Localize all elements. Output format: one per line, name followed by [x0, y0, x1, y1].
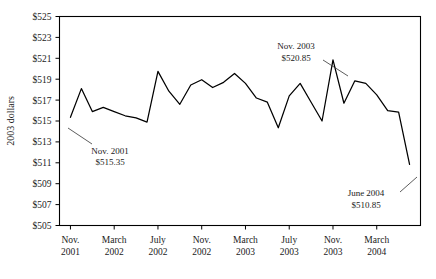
annotation-nov-2001-label: Nov. 2001 — [91, 146, 128, 156]
x-tick-label-year: 2003 — [236, 247, 255, 257]
annotation-nov-2003-label: Nov. 2003 — [277, 41, 315, 51]
y-tick-label: $519 — [33, 75, 52, 85]
annotation-nov-2003-value: $520.85 — [281, 53, 311, 63]
y-axis-title: 2003 dollars — [5, 96, 16, 146]
x-tick-label-year: 2002 — [192, 247, 211, 257]
x-tick-label-year: 2004 — [367, 247, 386, 257]
y-tick-label: $525 — [33, 12, 52, 22]
line-chart-svg: 2003 dollars $525$523$521$519$517$515$51… — [0, 0, 436, 279]
chart-figure: 2003 dollars $525$523$521$519$517$515$51… — [0, 0, 436, 279]
x-tick-label-month: Nov. — [61, 235, 79, 245]
x-tick-label-month: March — [102, 235, 127, 245]
y-tick-label: $521 — [33, 54, 52, 64]
y-tick-label: $507 — [33, 200, 52, 210]
x-tick-label-year: 2003 — [323, 247, 342, 257]
x-tick-label-month: Nov. — [324, 235, 342, 245]
x-tick-label-month: March — [233, 235, 258, 245]
x-tick-label-month: Nov. — [193, 235, 211, 245]
x-tick-label-month: July — [281, 235, 297, 245]
y-tick-label: $517 — [33, 96, 52, 106]
x-tick-label-year: 2001 — [61, 247, 80, 257]
x-tick-label-month: March — [364, 235, 389, 245]
y-tick-label: $513 — [33, 137, 52, 147]
annotation-nov-2001-value: $515.35 — [95, 157, 125, 167]
x-tick-label-year: 2003 — [280, 247, 299, 257]
x-tick-label-year: 2002 — [105, 247, 124, 257]
y-tick-label: $511 — [33, 158, 52, 168]
annotation-june-2004-label: June 2004 — [348, 188, 385, 198]
y-tick-label: $523 — [33, 33, 52, 43]
annotation-june-2004-value: $510.85 — [351, 200, 381, 210]
y-tick-label: $509 — [33, 179, 52, 189]
y-tick-label: $505 — [33, 221, 52, 231]
x-tick-label-month: July — [150, 235, 166, 245]
x-tick-label-year: 2002 — [148, 247, 167, 257]
y-tick-label: $515 — [33, 116, 52, 126]
